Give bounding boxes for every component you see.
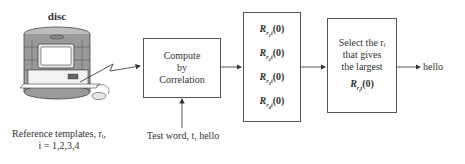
disc-label: disc xyxy=(40,10,74,22)
select-line-2: that gives xyxy=(343,49,382,61)
correlation-term-3: Rr3t(0) xyxy=(260,71,285,86)
select-line-1: Select the rᵢ xyxy=(339,37,386,49)
output-label: hello xyxy=(423,61,457,73)
compute-line-2: by xyxy=(144,62,220,74)
caption-line-1: Reference templates, rᵢ, xyxy=(0,128,118,140)
correlation-results-box: Rr1t(0) Rr2t(0) Rr3t(0) Rr4t(0) xyxy=(243,12,301,122)
compute-by-correlation-box: Compute by Correlation xyxy=(143,38,221,98)
compute-line-1: Compute xyxy=(144,50,220,62)
compute-line-3: Correlation xyxy=(144,74,220,86)
correlation-term-1: Rr1t(0) xyxy=(260,23,285,38)
select-largest-box: Select the rᵢ that gives the largest Rri… xyxy=(327,18,397,113)
disc-computer-icon xyxy=(20,27,109,100)
correlation-term-2: Rr2t(0) xyxy=(260,47,285,62)
test-word-label: Test word, t, hello xyxy=(128,130,238,142)
correlation-term-4: Rr4t(0) xyxy=(260,95,285,110)
caption-line-2: i = 1,2,3,4 xyxy=(0,140,118,152)
select-line-3: the largest xyxy=(341,61,382,73)
reference-templates-caption: Reference templates, rᵢ, i = 1,2,3,4 xyxy=(0,128,118,152)
select-term: Rrit(0) xyxy=(350,78,374,93)
